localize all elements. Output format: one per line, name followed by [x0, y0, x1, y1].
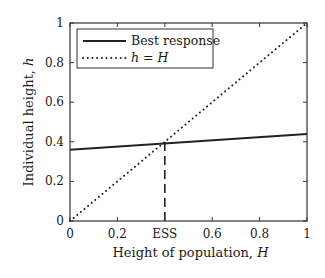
x-tick-label: 0.2 — [108, 227, 127, 241]
legend: Best responseh = H — [77, 29, 220, 68]
x-tick-label: ESS — [152, 227, 177, 241]
y-tick-label: 0.8 — [45, 56, 64, 70]
legend-label: Best response — [131, 33, 220, 48]
y-tick-label: 0.6 — [45, 95, 64, 109]
series-best-response-line — [70, 134, 307, 150]
y-tick-label: 1 — [56, 16, 64, 30]
x-axis-label: Height of population, H — [113, 245, 270, 260]
x-tick-label: 1 — [303, 227, 311, 241]
x-tick-label: 0.6 — [203, 227, 222, 241]
x-tick-label: 0.8 — [250, 227, 269, 241]
line-chart: 00.2ESS0.60.8100.20.40.60.81 Best respon… — [0, 0, 325, 278]
legend-label: h = H — [131, 50, 169, 65]
y-tick-label: 0.2 — [45, 174, 64, 188]
y-tick-label: 0.4 — [45, 135, 64, 149]
y-axis-label: Individual height, h — [21, 57, 36, 186]
y-tick-label: 0 — [56, 214, 64, 228]
chart-container: 00.2ESS0.60.8100.20.40.60.81 Best respon… — [0, 0, 325, 278]
x-tick-label: 0 — [66, 227, 74, 241]
